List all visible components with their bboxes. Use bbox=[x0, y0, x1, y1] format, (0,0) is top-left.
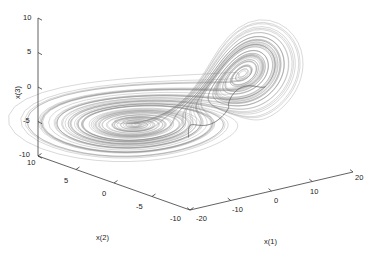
x-tick-mark bbox=[228, 198, 231, 200]
x-tick-mark bbox=[350, 170, 353, 172]
x-tick-label-0: 0 bbox=[274, 197, 278, 205]
x-axis-title: x(1) bbox=[264, 238, 277, 246]
y-tick-mark bbox=[152, 194, 156, 197]
y-tick-label-neg5: -5 bbox=[136, 203, 143, 211]
z-tick-label-0: 0 bbox=[27, 83, 31, 91]
x-tick-label-10: 10 bbox=[310, 188, 318, 196]
y-tick-mark bbox=[114, 181, 118, 184]
z-tick-mark bbox=[38, 87, 42, 89]
y-axis-title: x(2) bbox=[96, 234, 109, 242]
axis-ticks bbox=[38, 18, 353, 210]
x-tick-label-neg10: -10 bbox=[232, 206, 243, 214]
z-tick-mark bbox=[38, 18, 42, 20]
z-tick-label-neg5: -5 bbox=[23, 117, 30, 125]
y-tick-label-0: 0 bbox=[102, 190, 106, 198]
x-tick-label-neg20: -20 bbox=[196, 215, 207, 223]
z-tick-label-10: 10 bbox=[23, 14, 31, 22]
axis-lines bbox=[38, 18, 353, 210]
trajectory-path bbox=[9, 20, 303, 162]
plot-area bbox=[0, 0, 382, 261]
figure-canvas: 10 5 0 -5 -10 x(3) 10 5 0 -5 -10 x(2) -2… bbox=[0, 0, 382, 261]
z-tick-label-5: 5 bbox=[27, 48, 31, 56]
z-tick-mark bbox=[38, 53, 42, 55]
y-tick-label-5: 5 bbox=[64, 177, 68, 185]
x-tick-mark bbox=[269, 189, 272, 191]
x-tick-label-20: 20 bbox=[355, 174, 363, 182]
data-trajectory bbox=[9, 20, 303, 162]
y-tick-label-neg10: -10 bbox=[170, 215, 181, 223]
y-tick-mark bbox=[76, 167, 80, 170]
y-tick-label-10: 10 bbox=[27, 159, 35, 167]
y-tick-mark bbox=[38, 154, 42, 157]
z-axis-title: x(3) bbox=[14, 86, 22, 99]
x-tick-mark bbox=[309, 179, 312, 181]
